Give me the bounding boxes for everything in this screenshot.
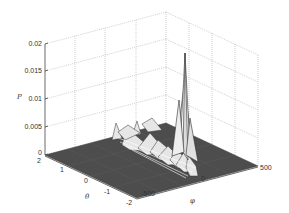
svg-text:0.02: 0.02 — [28, 40, 42, 47]
svg-text:-1: -1 — [104, 188, 110, 195]
z-tick-labels: 0.02 0.015 0.01 0.005 0 — [24, 40, 42, 156]
svg-text:500: 500 — [260, 164, 272, 171]
theta-axis-label: θ — [85, 193, 90, 201]
svg-text:0: 0 — [201, 175, 205, 182]
svg-text:-500: -500 — [141, 190, 155, 197]
phi-axis-label: φ — [190, 197, 195, 205]
z-axis-label: P — [16, 93, 22, 101]
main-peak — [172, 53, 198, 162]
surface-plot: 0.02 0.015 0.01 0.005 0 P 2 1 0 -1 -2 θ … — [0, 0, 289, 213]
z-axis — [45, 43, 48, 155]
svg-text:2: 2 — [37, 157, 41, 164]
svg-text:0.01: 0.01 — [28, 95, 42, 102]
svg-text:0.005: 0.005 — [24, 123, 42, 130]
svg-text:1: 1 — [60, 166, 64, 173]
surface-floor — [45, 123, 258, 198]
svg-text:0.015: 0.015 — [24, 67, 42, 74]
svg-text:-2: -2 — [126, 199, 132, 206]
svg-text:0: 0 — [38, 149, 42, 156]
svg-text:0: 0 — [84, 177, 88, 184]
